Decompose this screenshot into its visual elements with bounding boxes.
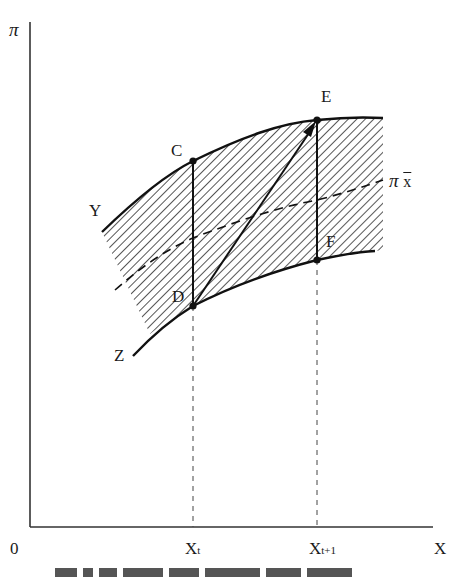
tick-xt-sub: t [197,544,200,556]
tick-xt-base: X [185,539,197,558]
point-f-label: F [326,233,335,250]
tick-xt: Xt [185,540,200,557]
x-bar-symbol: x [403,173,411,190]
curve-pi-xbar-label: π x [389,171,411,190]
point-f [313,256,320,263]
figure-caption-cropped [55,568,385,577]
point-c [189,157,196,164]
y-axis-label: π [9,20,19,39]
shaded-region [102,117,383,334]
point-d [189,302,196,309]
x-axis-label: X [434,540,446,557]
pi-symbol: π [389,170,399,191]
tick-xt1-base: X [309,539,321,558]
curve-y-label: Y [89,202,101,219]
curve-z-label: Z [114,347,124,364]
point-d-label: D [172,288,184,305]
diagram-canvas [0,0,453,577]
point-e-label: E [321,88,331,105]
tick-xt1: Xt+1 [309,540,336,557]
point-c-label: C [171,142,182,159]
point-e [313,116,320,123]
origin-label: 0 [10,540,19,557]
tick-xt1-sub: t+1 [321,544,336,556]
